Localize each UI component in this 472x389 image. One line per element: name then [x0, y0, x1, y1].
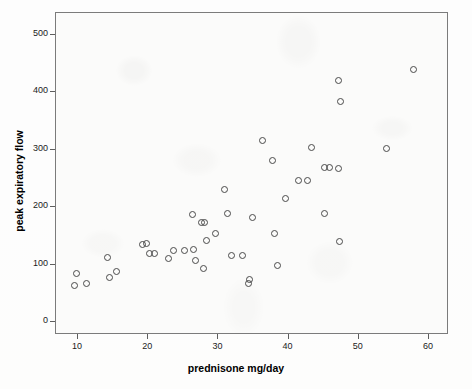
x-axis-title: prednisone mg/day: [0, 362, 472, 374]
x-tick-mark: [147, 334, 148, 339]
data-point: [221, 186, 228, 193]
x-tick-mark: [77, 334, 78, 339]
data-point: [228, 252, 235, 259]
data-point: [304, 177, 311, 184]
x-tick-label: 10: [62, 341, 92, 351]
x-tick-mark: [428, 334, 429, 339]
data-point: [106, 274, 113, 281]
y-tick-mark: [50, 264, 55, 265]
data-point: [165, 255, 172, 262]
data-point: [326, 164, 333, 171]
data-point: [143, 240, 150, 247]
data-point: [282, 195, 289, 202]
data-point: [203, 237, 210, 244]
y-tick-label: 0: [18, 315, 48, 325]
data-point: [83, 280, 90, 287]
data-point: [269, 157, 276, 164]
data-point: [190, 246, 197, 253]
plot-area: [55, 12, 448, 334]
scatter-plot-figure: 0100200300400500 102030405060 prednisone…: [0, 0, 472, 389]
data-point: [383, 145, 390, 152]
x-tick-mark: [288, 334, 289, 339]
data-point: [71, 282, 78, 289]
x-tick-mark: [217, 334, 218, 339]
y-tick-mark: [50, 91, 55, 92]
x-tick-label: 30: [202, 341, 232, 351]
data-point: [410, 66, 417, 73]
data-point: [113, 268, 120, 275]
data-point: [274, 262, 281, 269]
x-tick-mark: [358, 334, 359, 339]
x-tick-label: 40: [273, 341, 303, 351]
data-point: [295, 177, 302, 184]
y-tick-mark: [50, 206, 55, 207]
y-tick-mark: [50, 149, 55, 150]
data-point: [189, 211, 196, 218]
x-tick-label: 20: [132, 341, 162, 351]
data-point: [201, 219, 208, 226]
data-point: [308, 144, 315, 151]
x-tick-label: 50: [343, 341, 373, 351]
x-tick-label: 60: [413, 341, 443, 351]
y-tick-mark: [50, 34, 55, 35]
data-point: [249, 214, 256, 221]
y-tick-label: 500: [18, 28, 48, 38]
y-tick-mark: [50, 321, 55, 322]
data-point: [335, 165, 342, 172]
data-point: [337, 98, 344, 105]
data-point: [212, 230, 219, 237]
y-axis-title: peak expiratory flow: [13, 81, 25, 281]
